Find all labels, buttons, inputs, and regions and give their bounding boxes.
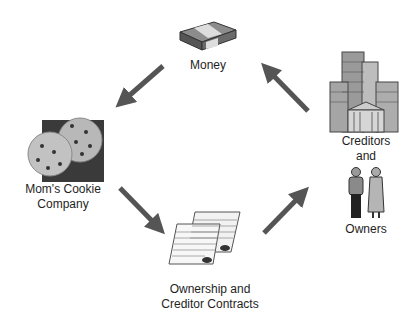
creditors-node <box>328 48 400 134</box>
creditors-label: Creditors and <box>330 134 402 164</box>
contracts-label-line1: Ownership and <box>150 282 270 297</box>
owners-label: Owners <box>336 222 396 237</box>
money-stack-icon <box>178 12 238 52</box>
owners-node <box>344 166 388 220</box>
arrow-contracts-to-owners <box>264 194 302 233</box>
company-node <box>24 112 106 182</box>
contracts-icon <box>165 208 245 268</box>
contracts-label: Ownership and Creditor Contracts <box>150 282 270 312</box>
company-label: Mom's Cookie Company <box>18 182 108 212</box>
creditors-label-line1: Creditors <box>330 134 402 149</box>
contracts-node <box>165 208 245 268</box>
contracts-label-line2: Creditor Contracts <box>150 297 270 312</box>
buildings-icon <box>328 48 400 134</box>
people-icon <box>344 166 388 220</box>
creditors-label-line2: and <box>330 149 402 164</box>
company-label-line1: Mom's Cookie <box>18 182 108 197</box>
money-node <box>178 12 238 52</box>
arrow-creditors-to-money <box>268 70 308 111</box>
money-label: Money <box>183 58 233 73</box>
arrow-money-to-company <box>123 66 163 101</box>
company-label-line2: Company <box>18 197 108 212</box>
cookies-icon <box>24 112 106 182</box>
arrow-company-to-contracts <box>120 188 158 227</box>
